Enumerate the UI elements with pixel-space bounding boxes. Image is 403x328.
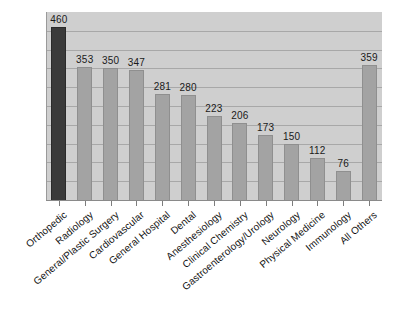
bar[interactable] [207,116,222,200]
x-axis-tick [111,201,112,206]
gridline [46,87,382,88]
bar[interactable] [51,27,66,200]
x-axis-tick [369,201,370,206]
x-axis-tick [343,201,344,206]
bar-value-label: 280 [171,82,205,93]
gridline [46,68,382,69]
bar[interactable] [362,65,377,200]
x-axis-tick [240,201,241,206]
x-axis-tick [85,201,86,206]
bar[interactable] [155,94,170,200]
gridline [46,50,382,51]
bar[interactable] [258,135,273,200]
x-axis-tick [214,201,215,206]
bar[interactable] [77,67,92,200]
bar[interactable] [129,70,144,200]
bar[interactable] [310,158,325,200]
x-axis-tick [136,201,137,206]
bar[interactable] [232,123,247,200]
bar-value-label: 150 [275,131,309,142]
y-axis-line [46,12,47,201]
bar-value-label: 460 [42,14,76,25]
bar-value-label: 112 [300,145,334,156]
bar[interactable] [181,95,196,200]
bar-chart-figure: 460Orthopedic353Radiology350General/Plas… [0,0,403,328]
x-axis-tick [317,201,318,206]
bar-value-label: 76 [326,158,360,169]
bar[interactable] [336,171,351,200]
x-axis-tick [188,201,189,206]
bar-value-label: 359 [352,52,386,63]
x-axis-tick [162,201,163,206]
bar-value-label: 206 [223,110,257,121]
bar[interactable] [103,68,118,200]
bar[interactable] [284,144,299,200]
bar-value-label: 347 [119,57,153,68]
gridline [46,31,382,32]
x-axis-tick [59,201,60,206]
x-axis-tick [266,201,267,206]
x-axis-tick [292,201,293,206]
